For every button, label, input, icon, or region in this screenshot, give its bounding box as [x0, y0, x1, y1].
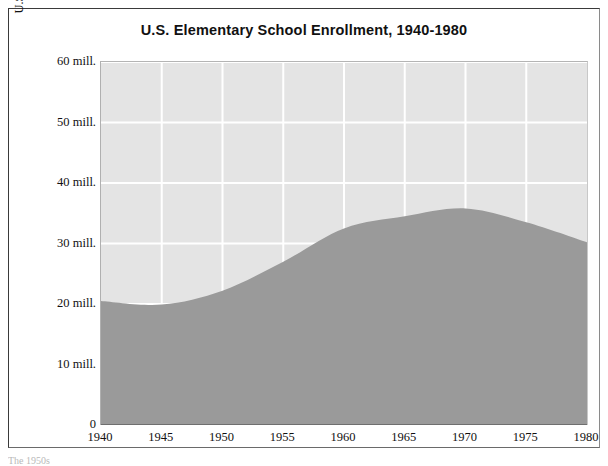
- y-tick-label: 10 mill.: [4, 356, 96, 371]
- enrollment-area-series: [101, 208, 587, 425]
- x-tick-label: 1970: [435, 430, 495, 445]
- x-tick-label: 1950: [192, 430, 252, 445]
- x-tick-label: 1945: [131, 430, 191, 445]
- y-tick-label: 30 mill.: [4, 235, 96, 250]
- x-tick-label: 1980: [556, 430, 608, 445]
- x-tick-label: 1965: [374, 430, 434, 445]
- x-tick-label: 1940: [70, 430, 130, 445]
- x-tick-label: 1960: [313, 430, 373, 445]
- x-tick-label: 1975: [495, 430, 555, 445]
- y-tick-label: 50 mill.: [4, 114, 96, 129]
- y-axis-tick-labels: 010 mill.20 mill.30 mill.40 mill.50 mill…: [0, 0, 96, 466]
- area-chart-svg: [101, 62, 587, 425]
- page-caption-fragment: The 1950s: [8, 455, 50, 466]
- y-tick-label: 60 mill.: [4, 54, 96, 69]
- y-tick-label: 20 mill.: [4, 296, 96, 311]
- x-axis-tick-labels: 194019451950195519601965197019751980: [0, 430, 608, 450]
- x-tick-label: 1955: [252, 430, 312, 445]
- y-tick-label: 40 mill.: [4, 175, 96, 190]
- plot-area: [100, 61, 588, 425]
